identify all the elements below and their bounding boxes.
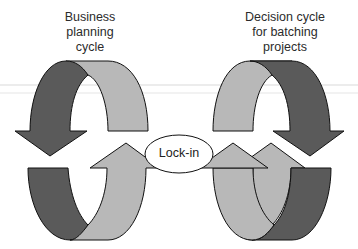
left-title-line-2: planning [40, 25, 140, 40]
diagram-canvas: Business planning cycle Decision cycle f… [0, 0, 358, 249]
left-title-line-3: cycle [40, 40, 140, 55]
right-title-line-3: projects [220, 40, 350, 55]
right-title-line-2: for batching [220, 25, 350, 40]
left-upper-dark-arrow [15, 61, 88, 156]
right-cycle-title: Decision cycle for batching projects [220, 10, 350, 55]
lock-in-label: Lock-in [145, 146, 213, 160]
left-cycle-title: Business planning cycle [40, 10, 140, 55]
left-lower-dark-arrow [28, 168, 88, 240]
right-title-line-1: Decision cycle [220, 10, 350, 25]
left-title-line-1: Business [40, 10, 140, 25]
